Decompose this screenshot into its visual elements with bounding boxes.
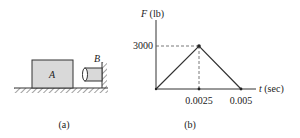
y-tick-label: 3000: [133, 40, 153, 51]
x-tick-label-2: 0.005: [230, 95, 253, 106]
panel-a: A B (a): [14, 53, 108, 131]
caption-b: (b): [184, 119, 196, 131]
peak-point: [197, 44, 201, 48]
panel-b: F (lb) 3000 0.0025 0.005 t (sec) (b): [133, 8, 284, 131]
ground: [14, 88, 108, 93]
block-label: A: [48, 69, 56, 80]
figure: A B (a) F (lb) 3000 0.0025: [0, 0, 300, 138]
y-axis-label: F (lb): [140, 8, 164, 20]
block-a: A: [32, 60, 73, 88]
origin-point: [155, 88, 157, 90]
x-axis-label: t (sec): [259, 83, 284, 95]
x-tick-label-1: 0.0025: [185, 95, 213, 106]
tick-point-0.005: [240, 88, 243, 91]
tick-point-0.0025: [198, 88, 201, 91]
bumper-cylinder: [83, 68, 103, 81]
wall-label: B: [94, 53, 100, 64]
caption-a: (a): [58, 119, 69, 131]
force-pulse-line: [156, 46, 241, 89]
